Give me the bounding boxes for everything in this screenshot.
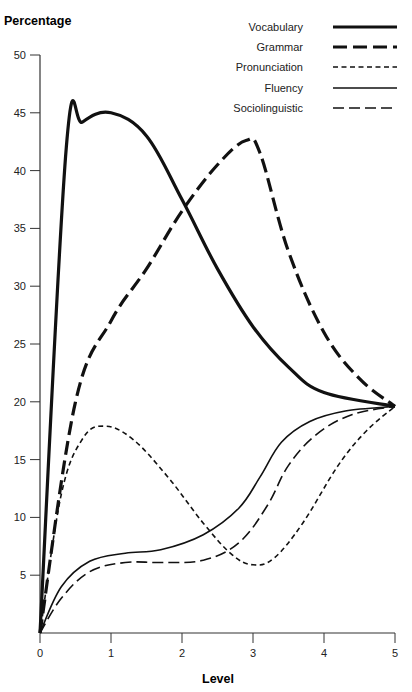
series-line-fluency [40, 406, 395, 633]
y-tick-label: 25 [14, 338, 26, 350]
x-tick-label: 1 [108, 647, 114, 659]
x-axis-title: Level [202, 672, 234, 686]
axes: 5101520253035404550012345 [14, 49, 398, 659]
series-line-grammar [40, 138, 395, 633]
legend-label-sociolinguistic: Sociolinguistic [233, 102, 303, 114]
legend-label-vocabulary: Vocabulary [249, 21, 304, 33]
y-tick-label: 45 [14, 107, 26, 119]
y-tick-label: 10 [14, 511, 26, 523]
line-chart: Percentage 5101520253035404550012345 Voc… [0, 0, 412, 692]
legend-label-grammar: Grammar [257, 41, 304, 53]
legend-label-pronunciation: Pronunciation [236, 61, 303, 73]
y-axis-title: Percentage [4, 14, 71, 28]
y-tick-label: 35 [14, 222, 26, 234]
y-tick-label: 5 [20, 569, 26, 581]
y-tick-label: 15 [14, 454, 26, 466]
x-tick-label: 2 [179, 647, 185, 659]
legend-label-fluency: Fluency [264, 82, 303, 94]
series-group [40, 101, 395, 633]
series-line-pronunciation [40, 406, 395, 633]
legend: VocabularyGrammarPronunciationFluencySoc… [233, 21, 397, 114]
x-tick-label: 0 [37, 647, 43, 659]
y-tick-label: 50 [14, 49, 26, 61]
x-tick-label: 5 [392, 647, 398, 659]
y-tick-label: 20 [14, 396, 26, 408]
series-line-vocabulary [40, 101, 395, 633]
series-line-sociolinguistic [40, 406, 395, 633]
x-tick-label: 4 [321, 647, 327, 659]
y-tick-label: 40 [14, 165, 26, 177]
y-tick-label: 30 [14, 280, 26, 292]
x-tick-label: 3 [250, 647, 256, 659]
